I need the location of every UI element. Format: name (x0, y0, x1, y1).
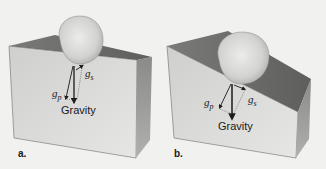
gravity-label-b: Gravity (218, 121, 253, 132)
gravity-label-a: Gravity (61, 105, 96, 116)
gp-label-a: gp (52, 88, 62, 102)
panel-label-b: b. (174, 149, 183, 159)
block-a-front-face (9, 46, 137, 158)
boulder-b (218, 32, 269, 84)
diagram-canvas (0, 0, 326, 169)
gp-label-b: gp (204, 97, 214, 111)
gs-label-b: gs (248, 94, 257, 108)
gs-label-a: gs (85, 68, 94, 82)
panel-label-a: a. (18, 149, 26, 159)
block-a-side-face (136, 57, 152, 158)
